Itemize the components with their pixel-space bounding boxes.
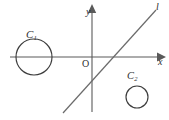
circle-c1-label: C1 xyxy=(26,29,37,40)
slanted-line-l xyxy=(63,10,156,113)
y-axis-label: y xyxy=(86,7,90,17)
x-axis-label: x xyxy=(158,57,162,67)
circle-c2-label: C2 xyxy=(127,71,137,82)
line-l-label: l xyxy=(156,2,159,12)
origin-label: O xyxy=(82,59,89,69)
geometry-figure: C1 C2 y x O l xyxy=(0,0,169,120)
circle-c2 xyxy=(126,86,148,108)
